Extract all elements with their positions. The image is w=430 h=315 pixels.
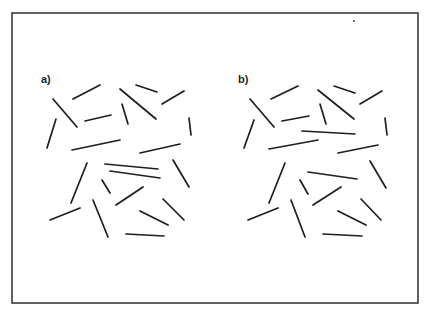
line-segment <box>93 200 108 237</box>
line-segment <box>244 120 254 148</box>
line-segment <box>110 171 160 178</box>
line-segment <box>71 163 87 203</box>
line-segment <box>50 208 80 220</box>
line-segment <box>291 200 305 237</box>
line-segment <box>102 180 110 193</box>
line-segment <box>163 199 184 220</box>
line-segment <box>189 118 191 135</box>
line-segment <box>72 140 120 150</box>
line-segment <box>338 145 378 153</box>
line-segment <box>248 208 278 220</box>
line-segment <box>320 104 326 124</box>
line-segment <box>173 160 189 187</box>
line-segment <box>269 140 318 149</box>
line-segment <box>85 115 111 121</box>
line-segment <box>73 85 100 99</box>
panel-b: b) <box>238 73 387 237</box>
line-segment <box>302 131 355 134</box>
panel-a: a) <box>41 73 191 237</box>
line-segment <box>162 91 184 104</box>
line-segment <box>126 234 164 236</box>
line-segment <box>140 211 168 225</box>
line-segment <box>361 199 381 220</box>
panel-b-segments <box>244 86 387 237</box>
line-segment <box>269 163 285 203</box>
line-segment <box>334 86 355 93</box>
panel-b-label: b) <box>238 73 249 85</box>
line-segment <box>338 211 366 225</box>
panel-a-segments <box>47 85 191 237</box>
line-segment <box>385 118 387 135</box>
line-segment <box>116 187 143 205</box>
line-segment <box>47 119 56 148</box>
figure-canvas: a) b) <box>0 0 430 315</box>
line-segment <box>122 104 128 124</box>
line-segment <box>105 164 158 169</box>
panel-a-label: a) <box>41 73 51 85</box>
line-segment <box>313 187 341 205</box>
line-segment <box>308 172 357 179</box>
scan-speck <box>353 20 355 22</box>
line-segment <box>282 116 309 121</box>
line-segment <box>271 86 298 99</box>
line-segment <box>136 85 157 92</box>
line-segment <box>140 144 180 153</box>
line-segment <box>323 234 362 236</box>
line-segment <box>370 161 386 188</box>
line-segment <box>360 91 382 104</box>
line-segment <box>300 180 308 194</box>
line-segment <box>53 99 77 127</box>
figure-frame <box>12 13 418 303</box>
